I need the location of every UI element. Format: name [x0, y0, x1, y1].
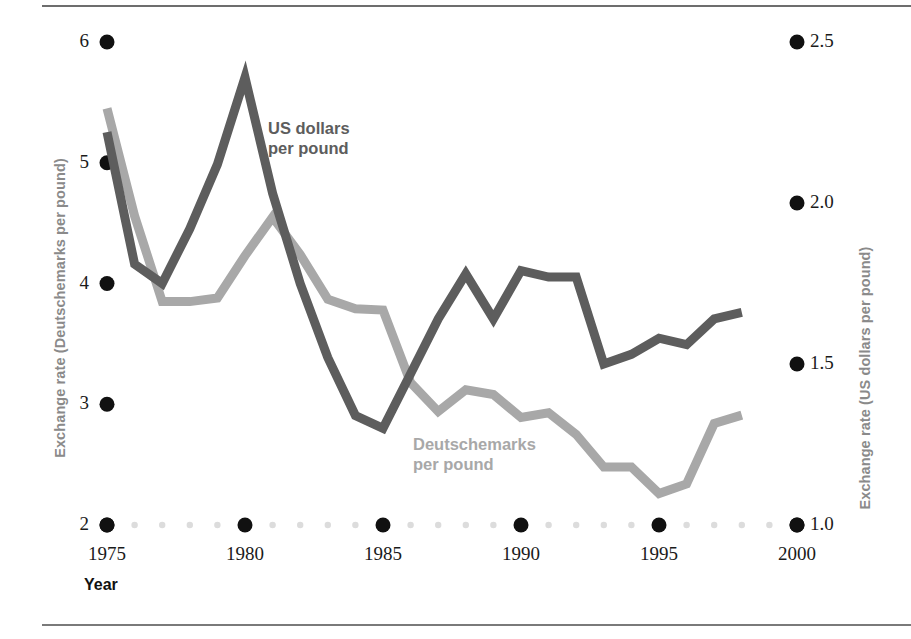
x-axis-major-ticks — [100, 518, 805, 533]
x-tick-dot-minor — [545, 522, 551, 528]
x-tick-dot-minor — [601, 522, 607, 528]
left-axis-tick-label: 2 — [49, 513, 89, 535]
x-tick-dot-minor — [711, 522, 717, 528]
x-tick-dot-major — [514, 518, 529, 533]
left-tick-dot — [100, 518, 115, 533]
right-tick-dot — [790, 196, 805, 211]
deutschemark-series-label: Deutschemarks per pound — [413, 434, 536, 474]
right-axis-tick-label: 1.0 — [810, 513, 870, 535]
x-axis-tick-label: 1985 — [343, 543, 423, 565]
right-tick-dot — [790, 518, 805, 533]
x-tick-dot-minor — [573, 522, 579, 528]
right-tick-dot — [790, 357, 805, 372]
x-tick-dot-minor — [131, 522, 137, 528]
right-axis-tick-dots — [790, 35, 805, 533]
x-tick-dot-minor — [739, 522, 745, 528]
x-axis-tick-label: 1995 — [619, 543, 699, 565]
usdollar-series-label: US dollars per pound — [268, 118, 350, 158]
x-tick-dot-minor — [214, 522, 220, 528]
left-tick-dot — [100, 397, 115, 412]
x-axis-label: Year — [84, 576, 118, 594]
x-tick-dot-major — [376, 518, 391, 533]
left-axis-tick-label: 4 — [49, 272, 89, 294]
x-tick-dot-minor — [766, 522, 772, 528]
x-axis-tick-label: 2000 — [757, 543, 837, 565]
x-axis-tick-label: 1975 — [67, 543, 147, 565]
chart-figure: Exchange rate (Deutschemarks per pound) … — [0, 0, 911, 639]
x-tick-dot-major — [652, 518, 667, 533]
x-tick-dot-minor — [628, 522, 634, 528]
right-tick-dot — [790, 35, 805, 50]
x-tick-dot-minor — [352, 522, 358, 528]
x-tick-dot-minor — [269, 522, 275, 528]
x-tick-dot-minor — [435, 522, 441, 528]
left-axis-tick-label: 6 — [49, 30, 89, 52]
x-tick-dot-minor — [325, 522, 331, 528]
x-tick-dot-minor — [407, 522, 413, 528]
x-tick-dot-major — [238, 518, 253, 533]
right-axis-tick-label: 2.0 — [810, 191, 870, 213]
right-axis-tick-label: 2.5 — [810, 30, 870, 52]
x-axis-tick-label: 1990 — [481, 543, 561, 565]
x-tick-dot-minor — [159, 522, 165, 528]
x-tick-dot-minor — [490, 522, 496, 528]
x-tick-dot-minor — [683, 522, 689, 528]
x-axis-tick-label: 1980 — [205, 543, 285, 565]
x-tick-dot-minor — [187, 522, 193, 528]
left-tick-dot — [100, 276, 115, 291]
left-axis-tick-label: 5 — [49, 151, 89, 173]
x-tick-dot-minor — [297, 522, 303, 528]
right-axis-tick-label: 1.5 — [810, 352, 870, 374]
usdollar-line — [107, 77, 742, 428]
x-tick-dot-minor — [463, 522, 469, 528]
left-axis-tick-label: 3 — [49, 392, 89, 414]
x-axis-minor-ticks — [131, 522, 772, 528]
left-tick-dot — [100, 35, 115, 50]
